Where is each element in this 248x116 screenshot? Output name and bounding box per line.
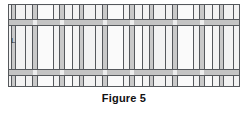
panel-bay3b-low <box>205 76 212 87</box>
node-u5 <box>173 20 177 25</box>
node-u3 <box>103 20 107 25</box>
node-u2 <box>60 20 64 25</box>
figure-container: L Figure 5 <box>0 0 248 116</box>
panel-bay2-mid <box>108 26 123 69</box>
panel-bay2b-low <box>135 76 142 87</box>
panel-bay1b-low <box>65 76 72 87</box>
dimension-label-L: L <box>11 36 15 45</box>
panel-bay2-upper <box>108 6 123 19</box>
panel-bay1-lower <box>38 76 53 87</box>
node-u1 <box>33 20 37 25</box>
elevation-frame <box>8 4 240 87</box>
upper-beam-band <box>9 19 239 26</box>
node-u4 <box>130 20 134 25</box>
node-l4 <box>130 70 134 75</box>
node-l5 <box>173 70 177 75</box>
panel-bay1-mid <box>38 26 53 69</box>
panel-bay3b-mid <box>205 26 212 69</box>
figure-caption: Figure 5 <box>0 92 248 104</box>
lower-beam-band <box>9 69 239 76</box>
node-l3 <box>103 70 107 75</box>
panel-bay1-upper <box>38 6 53 19</box>
node-l1 <box>33 70 37 75</box>
node-l2 <box>60 70 64 75</box>
node-u6 <box>200 20 204 25</box>
panel-bay3-upper <box>178 6 193 19</box>
panel-bay2-lower <box>108 76 123 87</box>
panel-bay1b-mid <box>65 26 72 69</box>
panel-bay3-lower <box>178 76 193 87</box>
node-l6 <box>200 70 204 75</box>
panel-bay2b-mid <box>135 26 142 69</box>
panel-bay3-mid <box>178 26 193 69</box>
